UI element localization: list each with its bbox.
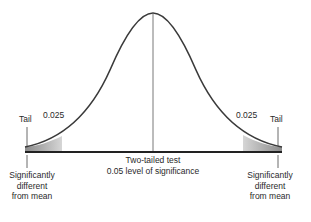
bell-curve bbox=[25, 13, 282, 147]
center-line-1: Two-tailed test bbox=[93, 155, 213, 166]
left-note-line: from mean bbox=[2, 191, 62, 202]
left-note: Significantly different from mean bbox=[2, 170, 62, 202]
center-line-2: 0.05 level of significance bbox=[93, 166, 213, 177]
right-note-line: from mean bbox=[240, 191, 300, 202]
right-area-label: 0.025 bbox=[236, 110, 257, 121]
right-note-line: Significantly bbox=[240, 170, 300, 181]
left-area-label: 0.025 bbox=[43, 110, 64, 121]
left-note-line: different bbox=[2, 181, 62, 192]
right-note-line: different bbox=[240, 181, 300, 192]
left-tail-label: Tail bbox=[19, 114, 32, 125]
right-note: Significantly different from mean bbox=[240, 170, 300, 202]
left-tail-shade bbox=[25, 136, 62, 152]
test-title: Two-tailed test 0.05 level of significan… bbox=[93, 155, 213, 176]
left-note-line: Significantly bbox=[2, 170, 62, 181]
right-tail-label: Tail bbox=[270, 114, 283, 125]
right-tail-shade bbox=[243, 135, 282, 152]
